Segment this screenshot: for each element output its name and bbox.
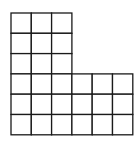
grid-cell (52, 74, 72, 94)
grid-cell (72, 94, 92, 114)
grid-cell (31, 33, 51, 53)
grid-cell (113, 94, 133, 114)
bottom-block (11, 74, 133, 135)
grid-cell (11, 33, 31, 53)
grid-cell (113, 74, 133, 94)
grid-cell (113, 115, 133, 135)
grid-cell (11, 13, 31, 33)
grid-cell (11, 115, 31, 135)
grid-cell (52, 13, 72, 33)
grid-cell (92, 94, 112, 114)
grid-cell (52, 54, 72, 74)
grid-cell (52, 33, 72, 53)
grid-cell (72, 74, 92, 94)
grid-cell (31, 74, 51, 94)
grid-cell (72, 115, 92, 135)
grid-cell (52, 115, 72, 135)
grid-cell (52, 94, 72, 114)
grid-cell (11, 94, 31, 114)
l-shaped-grid-diagram (0, 0, 138, 145)
grid-cell (31, 54, 51, 74)
grid-cell (11, 74, 31, 94)
grid-cell (92, 115, 112, 135)
grid-cell (31, 13, 51, 33)
grid-cell (31, 94, 51, 114)
grid-cell (92, 74, 112, 94)
grid-cell (31, 115, 51, 135)
grid-cell (11, 54, 31, 74)
top-block (11, 13, 72, 74)
